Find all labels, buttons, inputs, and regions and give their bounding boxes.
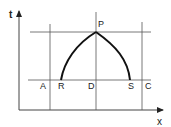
y-axis-label: t	[9, 9, 13, 20]
x-axis-label: x	[157, 116, 162, 127]
point-label-a: A	[40, 81, 46, 91]
curve-ps	[96, 32, 130, 80]
point-label-s: S	[128, 81, 134, 91]
spacetime-diagram: t x P A R D S C	[0, 0, 171, 127]
point-label-r: R	[58, 81, 65, 91]
point-label-d: D	[88, 81, 95, 91]
point-label-p: P	[98, 19, 104, 29]
curve-rp	[61, 32, 96, 80]
point-label-c: C	[145, 81, 152, 91]
